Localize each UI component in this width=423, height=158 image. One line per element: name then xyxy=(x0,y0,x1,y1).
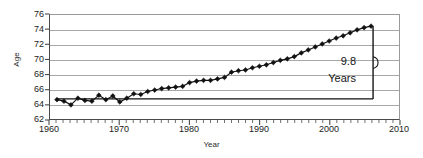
plot-area xyxy=(49,14,400,120)
annotation-value: 9.8 xyxy=(292,55,356,67)
chart-figure: Age Year 76 74 72 70 68 66 64 62 1960 19… xyxy=(0,0,423,158)
x-axis-ticks xyxy=(49,120,401,127)
annotation-unit: Years xyxy=(292,72,356,84)
y-tick-label-76: 76 xyxy=(22,9,44,19)
y-tick-label-74: 74 xyxy=(22,24,44,34)
y-tick-label-62: 62 xyxy=(22,114,44,124)
y-tick-label-66: 66 xyxy=(22,84,44,94)
x-axis-title: Year xyxy=(0,140,423,149)
y-tick-label-70: 70 xyxy=(22,54,44,64)
y-tick-label-64: 64 xyxy=(22,99,44,109)
series-overlay xyxy=(50,15,399,119)
annotation-bracket xyxy=(373,26,378,99)
y-tick-label-72: 72 xyxy=(22,39,44,49)
y-axis-ticks xyxy=(44,14,50,121)
y-axis-title: Age xyxy=(12,40,21,80)
y-tick-label-68: 68 xyxy=(22,69,44,79)
